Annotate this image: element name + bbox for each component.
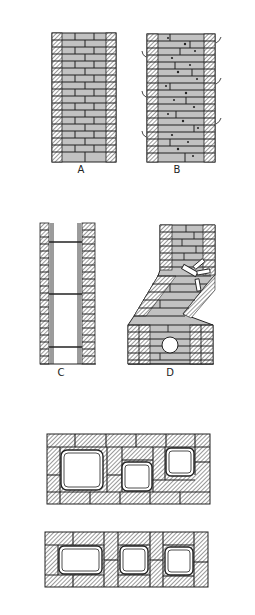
panel-d-leaning-chimney [128, 225, 215, 364]
panel-c-label: C [51, 367, 71, 378]
plan-view-1 [47, 434, 210, 504]
panel-a-label: A [71, 164, 91, 175]
panel-c-flue-liner-section [40, 223, 96, 364]
panel-b-label: B [167, 164, 187, 175]
panel-d-label: D [160, 367, 180, 378]
chimney-diagram [0, 0, 255, 615]
panel-a-chimney-elevation [52, 33, 116, 162]
panel-b-cracked-chimney [142, 34, 221, 162]
plan-view-2 [45, 532, 208, 587]
